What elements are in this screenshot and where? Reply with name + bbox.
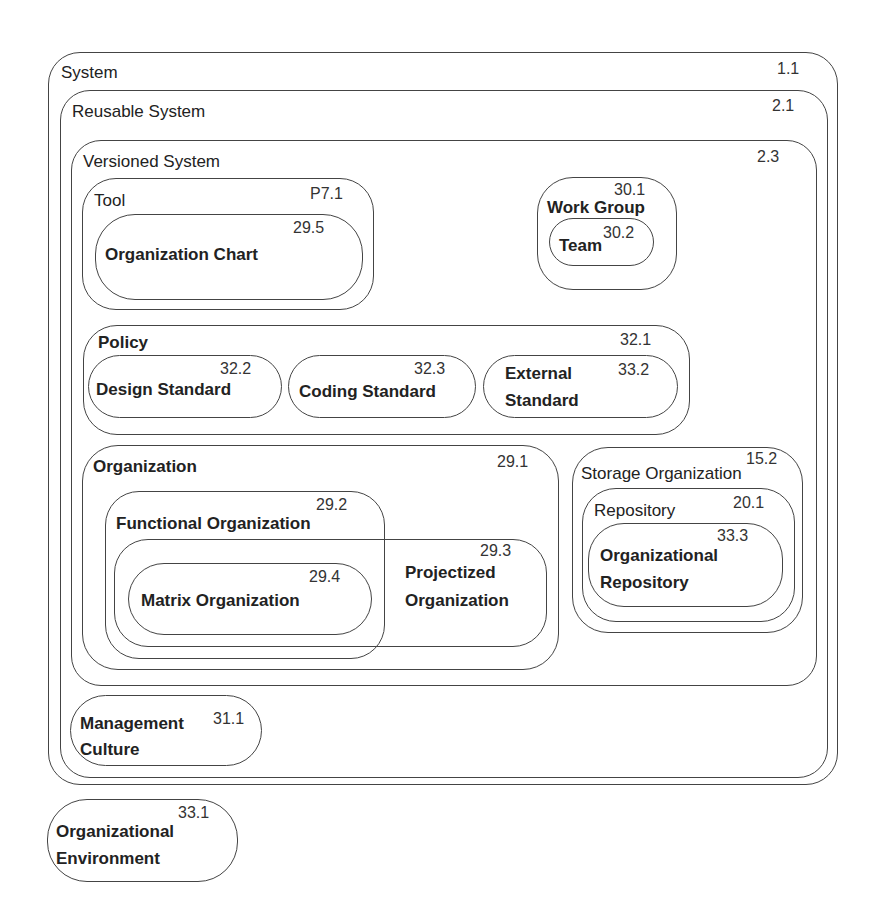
team-label: Team bbox=[559, 237, 602, 256]
system-label: System bbox=[61, 64, 118, 83]
functional-organization-label: Functional Organization bbox=[116, 515, 311, 534]
external-standard-label-line2: Standard bbox=[505, 392, 579, 411]
work-group-id: 30.1 bbox=[614, 181, 645, 199]
organizational-environment-id: 33.1 bbox=[178, 804, 209, 822]
external-standard-label-line1: External bbox=[505, 365, 572, 384]
management-culture-label-line1: Management bbox=[80, 715, 184, 734]
external-standard-id: 33.2 bbox=[618, 361, 649, 379]
versioned-system-id: 2.3 bbox=[757, 148, 779, 166]
management-culture-id: 31.1 bbox=[213, 710, 244, 728]
projectized-organization-label-line1: Projectized bbox=[405, 564, 496, 583]
versioned-system-label: Versioned System bbox=[83, 153, 220, 172]
coding-standard-id: 32.3 bbox=[414, 360, 445, 378]
storage-organization-label: Storage Organization bbox=[581, 465, 742, 484]
repository-id: 20.1 bbox=[733, 494, 764, 512]
matrix-organization-id: 29.4 bbox=[309, 568, 340, 586]
organization-chart-label: Organization Chart bbox=[105, 246, 258, 265]
organization-chart-id: 29.5 bbox=[293, 219, 324, 237]
organizational-repository-label-line1: Organizational bbox=[600, 547, 718, 566]
projectized-organization-id: 29.3 bbox=[480, 542, 511, 560]
storage-organization-id: 15.2 bbox=[746, 450, 777, 468]
tool-id: P7.1 bbox=[310, 185, 343, 203]
matrix-organization-label: Matrix Organization bbox=[141, 592, 300, 611]
system-id: 1.1 bbox=[777, 60, 799, 78]
organization-label: Organization bbox=[93, 458, 197, 477]
organizational-repository-id: 33.3 bbox=[717, 527, 748, 545]
functional-organization-id: 29.2 bbox=[316, 496, 347, 514]
repository-label: Repository bbox=[594, 502, 675, 521]
tool-label: Tool bbox=[94, 192, 125, 211]
organizational-repository-label-line2: Repository bbox=[600, 574, 689, 593]
reusable-system-label: Reusable System bbox=[72, 103, 205, 122]
coding-standard-label: Coding Standard bbox=[299, 383, 436, 402]
organizational-environment-label-line2: Environment bbox=[56, 850, 160, 869]
projectized-organization-label-line2: Organization bbox=[405, 592, 509, 611]
management-culture-label-line2: Culture bbox=[80, 741, 140, 760]
design-standard-id: 32.2 bbox=[220, 360, 251, 378]
work-group-label: Work Group bbox=[547, 199, 645, 218]
organization-id: 29.1 bbox=[497, 453, 528, 471]
organizational-environment-label-line1: Organizational bbox=[56, 823, 174, 842]
design-standard-label: Design Standard bbox=[96, 381, 231, 400]
policy-label: Policy bbox=[98, 334, 148, 353]
team-id: 30.2 bbox=[603, 224, 634, 242]
policy-id: 32.1 bbox=[620, 331, 651, 349]
reusable-system-id: 2.1 bbox=[772, 97, 794, 115]
